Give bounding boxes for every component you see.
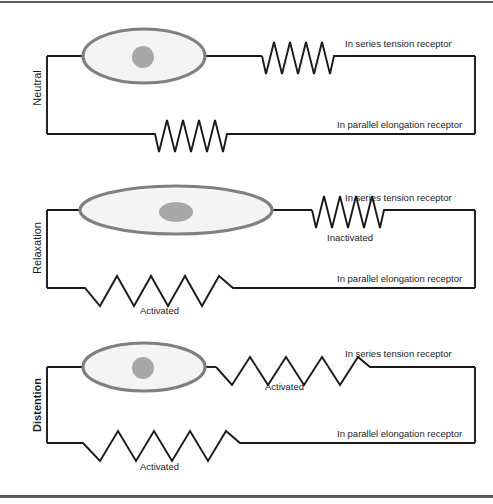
panel-relaxation: Relaxation In series tension receptor In…	[31, 186, 475, 316]
panel-state-label-neutral: Neutral	[31, 70, 43, 105]
nucleus-relaxation	[159, 202, 193, 222]
panel-state-label-distention: Distention	[31, 378, 43, 432]
series-receptor-label-relaxation: In series tension receptor	[345, 192, 452, 203]
diagram-canvas: Neutral In series tension receptor In pa…	[0, 0, 493, 504]
parallel-receptor-label-relaxation: In parallel elongation receptor	[337, 273, 462, 284]
nucleus-neutral	[132, 46, 154, 68]
series-spring-distention	[216, 357, 475, 385]
bottom-frame-bar	[0, 495, 493, 498]
top-frame-bar	[0, 1, 493, 3]
parallel-spring-state-distention: Activated	[140, 461, 179, 472]
series-receptor-label-distention: In series tension receptor	[345, 348, 452, 359]
panel-state-label-relaxation: Relaxation	[31, 222, 43, 274]
series-receptor-label-neutral: In series tension receptor	[345, 38, 452, 49]
parallel-receptor-label-distention: In parallel elongation receptor	[337, 428, 462, 439]
parallel-spring-state-relaxation: Activated	[140, 305, 179, 316]
series-spring-state-relaxation: Inactivated	[327, 232, 373, 243]
parallel-receptor-label-neutral: In parallel elongation receptor	[337, 119, 462, 130]
panel-distention: Distention In series tension receptor Ac…	[31, 343, 475, 472]
mechanoreceptor-diagram: Neutral In series tension receptor In pa…	[0, 0, 493, 504]
series-spring-state-distention: Activated	[265, 381, 304, 392]
panel-neutral: Neutral In series tension receptor In pa…	[31, 29, 475, 152]
nucleus-distention	[132, 357, 154, 379]
